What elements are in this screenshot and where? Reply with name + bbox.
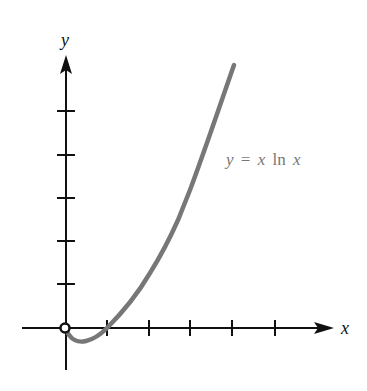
y-axis: y: [57, 30, 75, 370]
curve-label-equals: =: [241, 150, 251, 169]
curve-label-x1: x: [257, 150, 266, 169]
curve-xlnx: [66, 65, 234, 342]
curve-label: y = x ln x: [224, 150, 301, 169]
y-axis-label: y: [59, 30, 69, 50]
chart-figure: x y y = x ln x: [0, 0, 367, 391]
x-axis-label: x: [340, 318, 349, 338]
curve-label-x2: x: [292, 150, 301, 169]
curve-label-y: y: [224, 150, 234, 169]
origin-open-circle: [61, 324, 70, 333]
curve-label-ln: ln: [272, 150, 286, 169]
